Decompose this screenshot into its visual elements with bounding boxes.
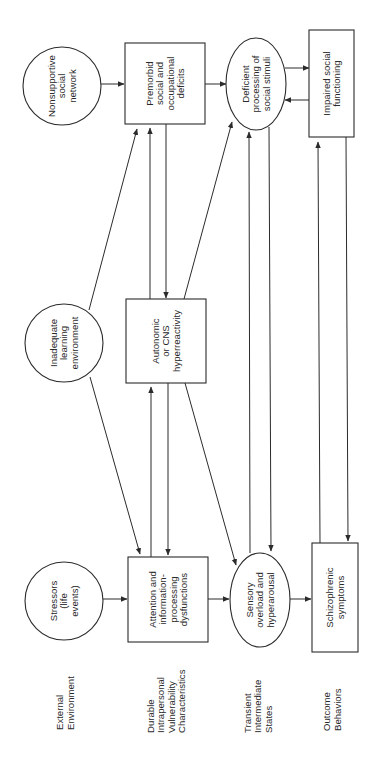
arrow-deficient-to-sensory (269, 127, 271, 551)
row-label-transient-line: Transient (242, 693, 253, 733)
attention-label-line: processing (168, 576, 179, 622)
premorbid-label-line: social and (154, 62, 165, 105)
node-impaired: Impaired socialfunctioning (309, 30, 354, 137)
row-label-durable-line: Durable (145, 699, 156, 733)
sensory-label-line: overload and (254, 572, 265, 627)
nodes-layer: NonsupportivesocialnetworkPremorbidsocia… (23, 30, 358, 652)
impaired-label: Impaired socialfunctioning (321, 51, 342, 116)
inadequate-label-line: environment (69, 316, 80, 369)
row-label-external-line: External (54, 695, 65, 730)
premorbid-label-line: occupational (165, 57, 176, 111)
node-deficient: Deficientprocessing ofsocial stimuli (226, 38, 286, 130)
attention-label-line: Attention and (147, 571, 158, 628)
arrow-sensory-to-deficient (249, 132, 250, 553)
node-schizophrenic: Schizophrenicsymptoms (312, 543, 358, 652)
node-autonomic: Autonomicor CNShyperreactivity (126, 299, 206, 383)
arrow-impaired-to-schizophrenic (346, 137, 348, 541)
arrow-schizophrenic-to-impaired (318, 142, 320, 543)
node-nonsupportive: Nonsupportivesocialnetwork (23, 47, 101, 125)
row-label-outcome: OutcomeBehaviors (321, 688, 342, 731)
row-label-durable-line: Vulnerability (166, 681, 177, 733)
premorbid-label-line: Premorbid (144, 61, 155, 105)
row-labels-layer: ExternalEnvironmentDurableIntrapersonalV… (54, 669, 342, 733)
arrow-inadequate-to-premorbid (89, 129, 137, 310)
arrow-autonomic-to-sensory (185, 383, 236, 565)
inadequate-label-line: Inadequate (48, 319, 59, 367)
row-label-transient-line: States (263, 706, 274, 733)
sensory-label-line: Sensory (244, 582, 255, 617)
schizophrenic-label-line: symptoms (335, 575, 346, 619)
node-attention: Attention andinformation-processingdysfu… (128, 557, 208, 642)
node-inadequate: Inadequatelearningenvironment (25, 304, 103, 382)
row-label-transient-line: Intermediate (252, 680, 263, 733)
node-sensory: Sensoryoverload andhyperarousal (230, 553, 290, 647)
attention-label-line: information- (157, 574, 168, 625)
row-label-external-line: Environment (65, 676, 76, 730)
node-stressors: Stressors(lifeevents) (25, 562, 103, 640)
row-label-transient: TransientIntermediateStates (242, 680, 274, 733)
row-label-durable-line: Intrapersonal (155, 677, 166, 733)
row-label-outcome-line: Behaviors (332, 688, 343, 731)
impaired-label-line: functioning (331, 60, 342, 106)
autonomic-label-line: or CNS (160, 325, 171, 356)
premorbid-label-line: deficits (175, 68, 186, 98)
arrow-inadequate-to-attention (90, 377, 140, 554)
row-label-durable-line: Characteristics (176, 669, 187, 733)
row-label-durable: DurableIntrapersonalVulnerabilityCharact… (145, 669, 187, 733)
vulnerability-stress-model-diagram: NonsupportivesocialnetworkPremorbidsocia… (0, 0, 375, 761)
arrow-autonomic-to-deficient (184, 122, 232, 299)
nonsupportive-label-line: network (67, 69, 78, 103)
row-label-outcome-line: Outcome (321, 692, 332, 731)
deficient-label-line: processing of (250, 55, 261, 112)
stressors-label-line: (life (58, 593, 69, 608)
inadequate-label-line: learning (58, 326, 69, 360)
node-premorbid: Premorbidsocial andoccupationaldeficits (125, 43, 205, 124)
attention-label: Attention andinformation-processingdysfu… (147, 571, 189, 628)
impaired-label-line: Impaired social (321, 51, 332, 116)
schizophrenic-label: Schizophrenicsymptoms (324, 567, 345, 627)
nonsupportive-label-line: social (56, 74, 67, 99)
stressors-label-line: events) (69, 585, 80, 616)
row-label-external: ExternalEnvironment (54, 676, 75, 730)
stressors-label-line: Stressors (48, 581, 59, 622)
autonomic-label-line: hyperreactivity (171, 310, 182, 372)
schizophrenic-label-line: Schizophrenic (324, 567, 335, 627)
autonomic-label-line: Autonomic (150, 318, 161, 364)
deficient-label-line: Deficient (240, 65, 251, 103)
sensory-label-line: hyperarousal (265, 572, 276, 627)
attention-label-line: dysfunctions (178, 573, 189, 627)
deficient-label-line: social stimuli (261, 57, 272, 111)
nonsupportive-label-line: Nonsupportive (46, 55, 57, 117)
